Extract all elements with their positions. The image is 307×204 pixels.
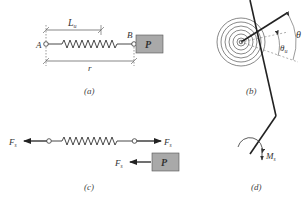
block-p-label: P — [145, 39, 152, 50]
caption-a: (a) — [84, 86, 95, 96]
point-b-label: B — [127, 30, 133, 40]
panel-a: Lu A B P r (a) — [35, 17, 163, 96]
theta-u-label: θu — [280, 43, 287, 54]
force-block-label: Fs — [114, 158, 123, 169]
block-p-free-body-label: P — [161, 157, 168, 168]
caption-c: (c) — [84, 182, 94, 192]
caption-d: (d) — [251, 182, 262, 192]
reference-line — [241, 42, 298, 62]
distance-label: r — [88, 63, 92, 73]
force-left-label: Fs — [8, 137, 17, 148]
unstretched-length-dimension: Lu — [43, 17, 104, 44]
theta-arc — [289, 16, 296, 60]
spring-free-body — [51, 137, 132, 145]
torsion-arm-free-body — [250, 0, 276, 116]
length-label: Lu — [67, 17, 77, 29]
point-a-node — [44, 42, 49, 47]
spring-end-left — [47, 139, 52, 144]
caption-b: (b) — [246, 86, 257, 96]
theta-label: θ — [296, 29, 301, 40]
panel-c: Fs Fs Fs P (c) — [8, 137, 179, 192]
moment-label: Ms — [265, 151, 276, 162]
diagram-canvas: Lu A B P r (a) — [0, 0, 307, 204]
distance-dimension: r — [43, 47, 137, 73]
panel-b: θ θu (b) — [217, 13, 301, 96]
point-b-node — [132, 42, 137, 47]
panel-d: Ms (d) — [238, 0, 276, 192]
spring — [48, 40, 132, 48]
point-a-label: A — [35, 40, 42, 50]
spring-end-right — [132, 139, 137, 144]
torsion-arm-free-body — [250, 116, 276, 154]
force-right-label: Fs — [163, 137, 172, 148]
